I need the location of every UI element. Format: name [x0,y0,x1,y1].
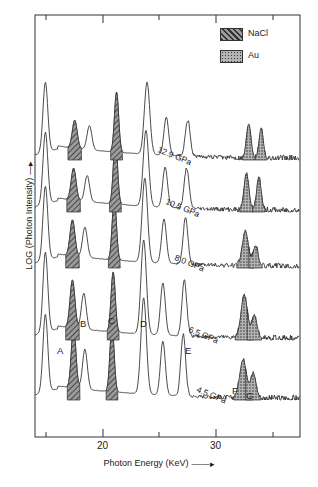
peak-label-a: A [57,345,63,356]
peak-label-c: C [108,315,115,326]
x-axis-label-text: Photon Energy (KeV) [103,458,188,468]
peak-label-f: F [232,385,238,396]
peak-label-e: E [185,345,191,356]
au-peak-fill [255,128,267,160]
spectra-plot [0,0,318,487]
peak-label-g: G [246,390,253,401]
nacl-peak-fill [107,272,119,340]
x-axis-arrow-icon: ——▸ [192,459,215,469]
nacl-peak-fill [66,220,80,268]
peak-label-d: D [140,318,147,329]
peak-label-b: B [80,318,86,329]
x-tick-label-20: 20 [97,440,108,451]
legend-label-au: Au [248,50,259,60]
au-peak-fill [240,174,254,212]
au-peak-fill [242,124,255,160]
au-peak-fill [249,246,263,268]
y-axis-arrow-icon: —▸ [24,161,34,175]
spectra-traces [31,82,299,400]
legend-swatch-au [220,50,243,63]
nacl-peak-fill [66,280,80,340]
x-tick-label-30: 30 [210,440,221,451]
legend-swatch-nacl [220,28,243,41]
au-peak-fill [253,178,266,212]
nacl-peak-fill [67,168,81,212]
x-axis-label: Photon Energy (KeV)——▸ [0,458,318,469]
nacl-peak-fill [111,92,123,160]
legend-label-nacl: NaCl [248,28,268,38]
y-axis-label-text: LOG (Photon Intensity) [24,178,34,270]
y-axis-label: LOG (Photon Intensity)—▸ [24,140,35,290]
nacl-peak-fill [68,120,82,160]
figure-root: NaCl Au LOG (Photon Intensity)—▸ Photon … [0,0,318,487]
